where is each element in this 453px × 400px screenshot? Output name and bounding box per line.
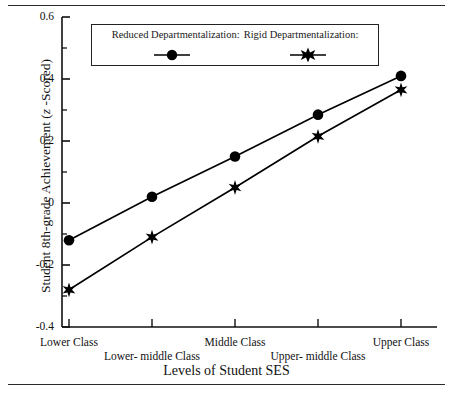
y-axis-title-italic: z [38, 109, 53, 114]
x-axis-title: Levels of Student SES [0, 363, 453, 379]
x-tick-label: Lower Class [9, 337, 129, 349]
y-axis-ticks [62, 17, 70, 327]
legend-labels-row: Reduced Departmentalization: Rigid Depar… [92, 29, 378, 40]
legend-markers-row [92, 45, 378, 65]
x-axis-ticks [69, 319, 401, 327]
figure-container: 0.60.40.20-0.2-0.4 Lower ClassLower- mid… [0, 0, 453, 400]
x-tick-label: Upper Class [341, 337, 453, 349]
series-markers [63, 71, 408, 298]
legend-entry-label-reduced: Reduced Departmentalization: [110, 29, 242, 40]
x-tick-label: Middle Class [175, 337, 295, 349]
chart-legend: Reduced Departmentalization: Rigid Depar… [91, 24, 379, 66]
y-axis-title: Student 8th-grade Achievement (z -Scored… [38, 26, 54, 326]
star-marker-icon [288, 47, 328, 63]
circle-marker-icon [152, 47, 192, 63]
x-tick-label: Upper- middle Class [258, 351, 378, 363]
y-tick-label: 0.6 [14, 11, 54, 23]
y-axis-title-before: Student 8th-grade Achievement ( [38, 114, 53, 293]
legend-entry-label-rigid: Rigid Departmentalization: [242, 29, 361, 40]
x-tick-label: Lower- middle Class [92, 351, 212, 363]
y-axis-title-after: -Scored) [38, 59, 53, 109]
